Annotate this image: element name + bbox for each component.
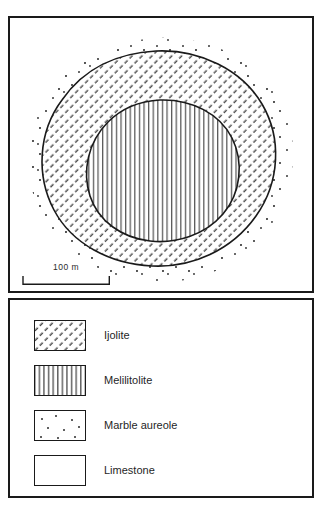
legend-label-ijolite: Ijolite [104, 320, 130, 351]
marble-aureole-swatch-pattern [34, 410, 86, 441]
map-svg [10, 18, 312, 291]
legend-label-melilitolite: Melilitolite [104, 365, 152, 396]
map-panel: 100 m [8, 16, 314, 293]
legend-swatch-limestone [34, 455, 86, 486]
scale-bar-graphic [22, 274, 122, 290]
legend-swatch-ijolite [34, 320, 86, 351]
legend-swatch-marble-aureole [34, 410, 86, 441]
legend-label-marble-aureole: Marble aureole [104, 410, 177, 441]
scale-bar: 100 m [22, 262, 122, 292]
ijolite-swatch-pattern [34, 320, 86, 351]
scale-bar-label: 100 m [22, 262, 110, 272]
melilitolite-swatch-pattern [34, 365, 86, 396]
geological-map-figure: 100 m [0, 0, 326, 506]
melilitolite-unit [87, 100, 240, 242]
legend-swatch-melilitolite [34, 365, 86, 396]
legend-label-limestone: Limestone [104, 455, 155, 486]
legend-panel: Ijolite Melilitolite [8, 298, 314, 498]
cropped-header-text [196, 0, 316, 8]
map-drawing-area [10, 18, 312, 291]
